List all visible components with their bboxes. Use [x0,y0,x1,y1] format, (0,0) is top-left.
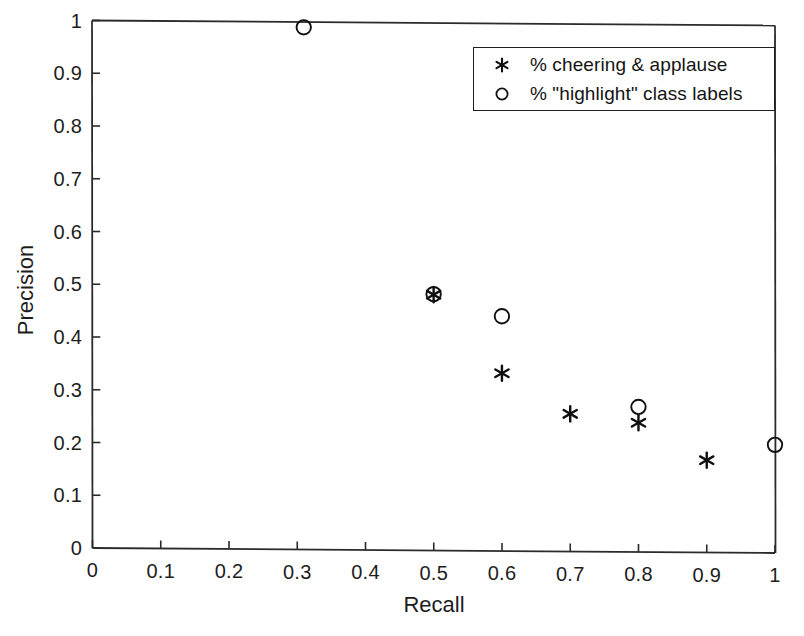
x-tick-label: 0.9 [693,565,721,585]
y-tick-label: 0.5 [40,274,82,294]
legend-entry-highlight-class-labels: % "highlight" class labels [474,79,774,109]
legend-label: % "highlight" class labels [530,83,743,105]
y-tick-label: 1 [40,11,82,31]
data-point-asterisk [700,453,713,468]
x-tick-label: 0.5 [420,563,448,583]
x-tick-label: 0.1 [147,561,175,581]
y-tick-label: 0.6 [40,222,82,242]
y-axis-title: Precision [13,245,39,335]
x-tick-label: 1 [769,565,780,585]
data-point-circle [631,400,645,414]
y-tick-label: 0.7 [40,169,82,189]
asterisk-marker-icon [474,54,530,76]
x-tick-label: 0.8 [624,564,652,584]
y-tick-label: 0.8 [40,116,82,136]
circle-marker-icon [474,83,530,105]
y-tick-label: 0.1 [40,485,82,505]
y-tick-label: 0.2 [40,433,82,453]
data-point-asterisk [564,406,577,421]
axis-right [775,26,776,554]
legend: % cheering & applause % "highlight" clas… [473,47,775,111]
data-point-asterisk [632,415,645,430]
data-point-circle [495,309,509,323]
axis-top [92,21,775,26]
y-tick-label: 0 [40,538,82,558]
y-tick-label: 0.4 [40,327,82,347]
y-tick-label: 0.9 [40,63,82,83]
x-tick-label: 0.7 [556,564,584,584]
x-tick-label: 0.3 [283,562,311,582]
data-point-asterisk [495,366,508,381]
x-tick-label: 0.2 [215,561,243,581]
x-tick-label: 0 [87,560,98,580]
y-tick-label: 0.3 [40,380,82,400]
x-tick-label: 0.6 [488,563,516,583]
x-tick-label: 0.4 [351,562,379,582]
legend-entry-cheering-applause: % cheering & applause [474,50,774,80]
x-axis-title: Recall [403,592,464,618]
precision-recall-chart: 00.10.20.30.40.50.60.70.80.91 00.10.20.3… [0,0,804,636]
legend-label: % cheering & applause [530,54,728,76]
